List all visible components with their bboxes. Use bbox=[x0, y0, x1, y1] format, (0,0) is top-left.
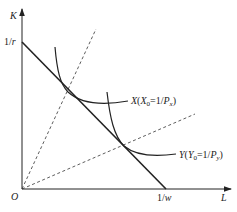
diagram-svg: K 1/r O 1/w L X(X0=1/Px) Y(Y0=1/Py) bbox=[0, 0, 237, 212]
isocost-line bbox=[22, 42, 166, 189]
isoquant-x bbox=[55, 47, 128, 103]
shallow-ray bbox=[22, 114, 195, 189]
isoquant-y-label: Y(Y0=1/Py) bbox=[179, 149, 223, 162]
l-axis-label: L bbox=[220, 192, 227, 203]
k-axis-label: K bbox=[9, 10, 18, 21]
origin-label: O bbox=[11, 191, 18, 202]
isoquant-x-label: X(X0=1/Px) bbox=[130, 95, 176, 108]
isoquant-diagram: K 1/r O 1/w L X(X0=1/Px) Y(Y0=1/Py) bbox=[0, 0, 237, 212]
x-intercept-label: 1/w bbox=[157, 192, 172, 203]
y-intercept-label: 1/r bbox=[4, 36, 16, 47]
